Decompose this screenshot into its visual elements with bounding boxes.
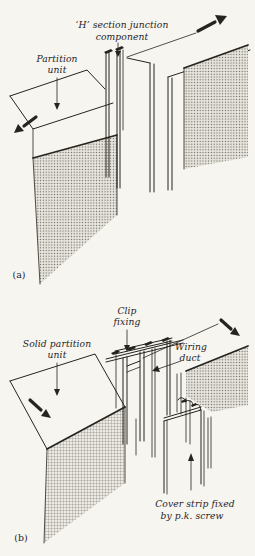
- diagram-a: ‘H’ section junction component Partition…: [10, 15, 250, 284]
- leader-arrow-solid-partition: [54, 363, 60, 396]
- partition-unit-label-line2: unit: [48, 64, 67, 75]
- partition-unit-label-line1: Partition: [35, 53, 77, 64]
- partition-junction-diagram: ‘H’ section junction component Partition…: [0, 0, 255, 556]
- h-section-label-line2: component: [96, 31, 149, 42]
- wiring-duct-label-line1: Wiring: [175, 341, 207, 352]
- cover-strip-label-line1: Cover strip fixed: [155, 498, 235, 509]
- left-partition-b: [10, 354, 125, 543]
- panel-tag-b: (b): [14, 532, 27, 543]
- panel-tag-a: (a): [13, 269, 26, 280]
- right-partition-a: [127, 33, 250, 192]
- cover-strip-label-line2: by p.k. screw: [160, 510, 223, 521]
- left-partition-a: [10, 70, 117, 284]
- direction-arrow-ne: [198, 15, 227, 31]
- cover-strip: [164, 407, 211, 494]
- leader-arrow-partition-unit: [54, 78, 60, 110]
- wiring-duct-label-line2: duct: [179, 352, 200, 363]
- h-section-label-line1: ‘H’ section junction: [76, 19, 169, 30]
- clip-fixing-label-line2: fixing: [113, 316, 141, 327]
- diagram-b: Clip fixing Solid partition unit Wiring …: [10, 305, 248, 543]
- solid-partition-label-line2: unit: [48, 349, 67, 360]
- direction-arrow-se-right: [221, 320, 240, 336]
- leader-arrow-cover-strip: [188, 453, 194, 490]
- clip-fixing-label-line1: Clip: [117, 305, 136, 316]
- solid-partition-label-line1: Solid partition: [23, 338, 91, 349]
- figure-page: ‘H’ section junction component Partition…: [0, 0, 255, 556]
- direction-arrow-se-left: [30, 400, 51, 418]
